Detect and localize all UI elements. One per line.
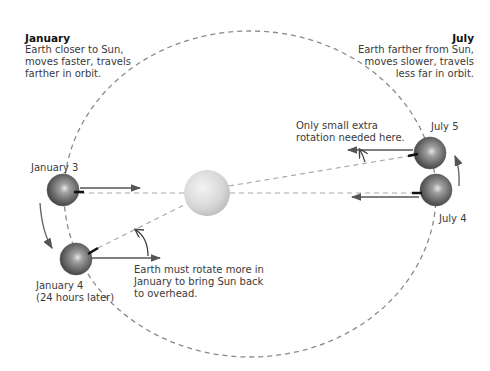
july-note-line: Earth farther from Sun, [358,44,474,56]
orbit-motion-arrow-january [40,203,52,248]
january-note: January Earth closer to Sun, moves faste… [25,32,131,80]
label-jul5: July 5 [431,121,459,133]
earth-jan3 [47,174,84,206]
label-jul4: July 4 [439,213,467,225]
january-note-line: Earth closer to Sun, [25,44,131,56]
label-jan4-line: (24 hours later) [36,292,114,304]
rotation-arc-january [136,230,148,256]
earth-jul5 [408,137,446,169]
label-jan4: January 4 (24 hours later) [36,280,114,304]
sightline-jan4 [90,203,188,252]
rotation-arc-july [360,150,365,162]
callout-january-line: January to bring Sun back [134,276,264,288]
july-note: July Earth farther from Sun, moves slowe… [358,32,474,80]
sightline-jul5 [229,155,415,186]
earth-jan4 [60,243,98,275]
july-note-line: less far in orbit. [358,68,474,80]
january-note-line: moves faster, travels [25,56,131,68]
orbit-motion-arrow-july [455,156,459,186]
callout-january: Earth must rotate more in January to bri… [134,264,264,300]
callout-july-line: Only small extra [296,120,405,132]
callout-july: Only small extra rotation needed here. [296,120,405,144]
july-note-title: July [358,32,474,44]
callout-july-line: rotation needed here. [296,132,405,144]
january-note-title: January [25,32,131,44]
january-note-line: farther in orbit. [25,68,131,80]
callout-january-line: Earth must rotate more in [134,264,264,276]
label-jan4-line: January 4 [36,280,114,292]
callout-january-line: to overhead. [134,288,264,300]
july-note-line: moves slower, travels [358,56,474,68]
earth-jul4 [412,174,452,206]
label-jan3: January 3 [31,162,78,174]
sun [184,170,230,216]
